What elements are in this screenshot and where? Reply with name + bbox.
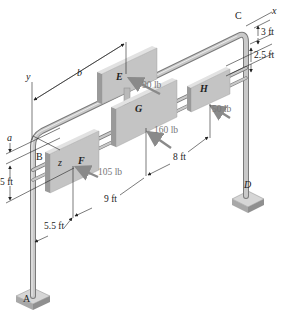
point-e-label: E [115,71,123,82]
point-f-label: F [77,155,85,166]
force-g-label: 160 lb [154,125,178,135]
frame-diagram: y x z A B C D E F G H 90 lb 105 lb 160 l… [0,0,282,313]
dim-5-5ft-label: 5.5 ft [44,221,64,231]
dim-b-label: b [77,67,82,78]
dim-2-5ft-label: 2.5 ft [254,50,274,60]
dim-3ft-label: 3 ft [261,27,274,37]
point-g-label: G [135,103,143,114]
point-c-label: C [235,10,242,21]
force-f-label: 105 lb [98,167,122,177]
dim-5ft-label: 5 ft [0,177,13,187]
sign-f [45,129,99,193]
dim-a-label: a [7,132,12,143]
axis-y-label: y [25,71,31,82]
point-h-label: H [199,83,209,94]
point-b-label: B [36,151,43,162]
axis-x-label: x [271,5,277,16]
axis-z-label: z [57,157,62,168]
dim-9ft-label: 9 ft [104,194,117,204]
point-d-label: D [243,179,252,190]
dim-8ft-label: 8 ft [173,152,186,162]
point-a-label: A [23,293,31,304]
force-h-label: 50 lb [212,104,232,114]
force-e-label: 90 lb [142,80,162,90]
